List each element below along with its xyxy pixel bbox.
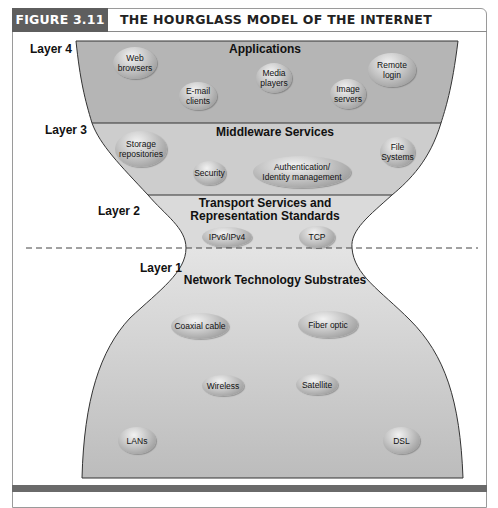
pill-image-servers: Imageservers	[330, 79, 366, 109]
pill-coaxial-cable: Coaxial cable	[171, 313, 229, 339]
pill-web-browsers: Webbrowsers	[113, 47, 157, 79]
layer1-label: Layer 1	[140, 261, 182, 275]
middleware-title: Middleware Services	[185, 126, 365, 139]
layer3-label: Layer 3	[45, 123, 87, 137]
pill-email-clients: E-mailclients	[179, 82, 217, 110]
layer2-label: Layer 2	[98, 204, 140, 218]
pill-tcp: TCP	[299, 226, 335, 248]
network-title: Network Technology Substrates	[175, 274, 375, 287]
pill-satellite: Satellite	[296, 374, 338, 395]
pill-remote-login: Remotelogin	[368, 53, 416, 87]
transport-title: Transport Services and Representation St…	[180, 197, 350, 223]
pill-wireless: Wireless	[202, 375, 244, 396]
pill-storage-repositories: Storagerepositories	[115, 131, 167, 167]
pill-file-systems: FileSystems	[380, 137, 415, 167]
pill-auth-identity: Authentication/Identity management	[253, 156, 351, 188]
layer4-label: Layer 4	[30, 42, 72, 56]
pill-security: Security	[193, 161, 226, 185]
pill-ipv6-ipv4: IPv6/IPv4	[202, 227, 252, 247]
transport-title-line2: Representation Standards	[180, 210, 350, 223]
pill-lans: LANs	[118, 427, 156, 454]
figure-bottom-bar	[12, 485, 487, 492]
pill-media-players: Mediaplayers	[256, 63, 292, 93]
pill-dsl: DSL	[383, 427, 420, 454]
pill-fiber-optic: Fiber optic	[298, 311, 358, 338]
applications-title: Applications	[200, 43, 330, 56]
hourglass-bands	[60, 41, 480, 478]
